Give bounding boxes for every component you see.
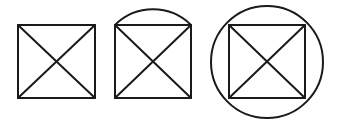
- diagram-canvas: [0, 0, 338, 126]
- figure-square-with-diagonals: [18, 25, 95, 98]
- figure-square-in-circle: [211, 6, 323, 118]
- arc-shape: [115, 9, 191, 25]
- figure-square-with-arc: [115, 9, 191, 98]
